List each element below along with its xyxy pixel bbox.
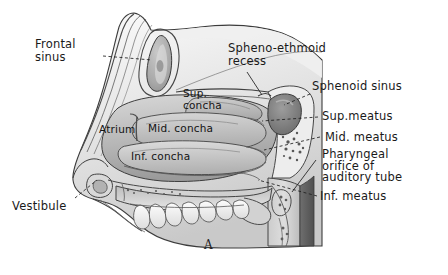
nasal-cavity-illustration xyxy=(0,0,448,275)
anatomical-figure: Frontal sinus Spheno-ethmoid recess Sphe… xyxy=(0,0,448,275)
figure-caption: A xyxy=(204,238,213,252)
inferior-concha xyxy=(118,141,266,175)
drawing-body xyxy=(73,13,322,248)
frontal-sinus-septum-dot xyxy=(157,60,164,72)
nostril-opening xyxy=(93,180,107,193)
pharynx-dark-gutter xyxy=(300,176,314,246)
atrium-ridge xyxy=(136,117,137,141)
